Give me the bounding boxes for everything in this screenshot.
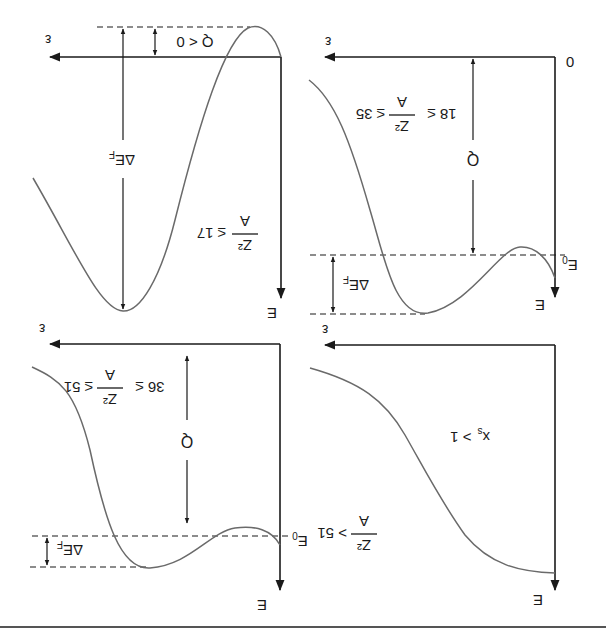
condition-a: Z² A ≤ 17: [197, 213, 258, 254]
e0-label: E0: [292, 530, 308, 550]
svg-text:A: A: [397, 94, 407, 111]
svg-text:Z²: Z²: [103, 391, 117, 408]
energy-axis-label: E: [267, 305, 277, 322]
svg-text:A: A: [240, 213, 250, 230]
q-label: Q: [181, 433, 193, 450]
svg-text:xs> 1: xs> 1: [450, 426, 490, 446]
energy-axis-label: E: [535, 297, 545, 314]
barrier-label: ΔEF: [57, 539, 83, 559]
q-label: Q: [467, 151, 479, 168]
svg-text:36 ≤: 36 ≤: [135, 379, 164, 396]
potential-curve: [33, 27, 281, 311]
condition-c: 36 ≤ Z² A ≤ 51: [64, 367, 165, 408]
deformation-axis-label: ε: [325, 34, 331, 50]
panel-b: 0 E ε E0 Q ΔEF 18 ≤ Z² A ≤ 35: [309, 34, 578, 314]
fission-barrier-diagram: E ε Q < 0 ΔEF Z² A ≤ 17 0 E ε E0 Q: [0, 0, 606, 641]
energy-axis-label: E: [533, 592, 543, 609]
deformation-axis-label: ε: [39, 321, 45, 337]
svg-text:≤ 17: ≤ 17: [197, 225, 226, 242]
condition-d: Z² A > 51: [317, 513, 377, 554]
e0-label: E0: [562, 254, 578, 274]
svg-text:A: A: [359, 513, 369, 530]
q-label: Q < 0: [176, 34, 213, 51]
svg-text:A: A: [105, 367, 115, 384]
svg-text:Z²: Z²: [395, 118, 409, 135]
condition-b: 18 ≤ Z² A ≤ 35: [356, 94, 457, 135]
svg-text:> 51: > 51: [317, 525, 347, 542]
svg-text:≤ 51: ≤ 51: [64, 379, 93, 396]
svg-text:Z²: Z²: [357, 537, 371, 554]
deformation-axis-label: ε: [45, 32, 51, 48]
svg-text:Z²: Z²: [238, 237, 252, 254]
panel-d: E ε xs> 1 Z² A > 51: [310, 322, 555, 609]
svg-text:18 ≤: 18 ≤: [427, 106, 456, 123]
xs-label: xs> 1: [450, 426, 490, 446]
panel-a: E ε Q < 0 ΔEF Z² A ≤ 17: [33, 27, 281, 322]
origin-label: 0: [566, 54, 574, 71]
barrier-label: ΔEF: [109, 149, 135, 169]
potential-curve: [32, 367, 280, 568]
barrier-label: ΔEF: [343, 274, 369, 294]
panel-c: E ε E0 Q ΔEF 36 ≤ Z² A ≤ 51: [30, 321, 308, 614]
svg-text:≤ 35: ≤ 35: [356, 106, 385, 123]
deformation-axis-label: ε: [322, 322, 328, 338]
energy-axis-label: E: [257, 597, 267, 614]
